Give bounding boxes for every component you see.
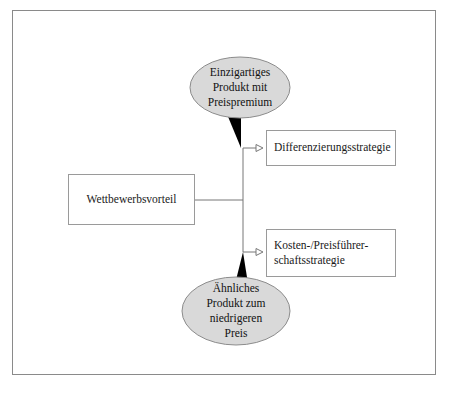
arrowhead-lower-icon (256, 249, 263, 256)
node-wettbewerbsvorteil[interactable]: Wettbewerbsvorteil (68, 174, 195, 225)
connector-arrowheads (256, 145, 263, 256)
node-differenzierungsstrategie-label: Differenzierungsstrategie (274, 140, 391, 155)
node-differenzierungsstrategie[interactable]: Differenzierungsstrategie (266, 130, 396, 166)
arrowhead-upper-icon (256, 145, 263, 152)
diagram-canvas: Wettbewerbsvorteil Differenzierungsstrat… (0, 0, 459, 393)
callout-bottom-ellipse (182, 277, 290, 345)
node-kostenfuehrerschaftsstrategie-label-line-2: schaftsstrategie (274, 253, 368, 268)
node-kostenfuehrerschaftsstrategie-label-line-1: Kosten-/Preisführer- (274, 238, 368, 253)
callout-top-ellipse (190, 57, 290, 118)
node-wettbewerbsvorteil-label: Wettbewerbsvorteil (87, 192, 177, 207)
node-kostenfuehrerschaftsstrategie[interactable]: Kosten-/Preisführer- schaftsstrategie (266, 229, 396, 277)
connector-tree (195, 148, 256, 252)
